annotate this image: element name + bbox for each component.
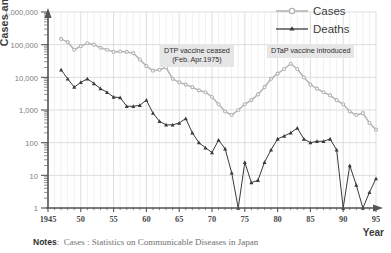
legend-label-cases: Cases (313, 5, 346, 17)
svg-text:100: 100 (25, 139, 38, 148)
svg-text:1: 1 (34, 204, 38, 213)
svg-text:70: 70 (208, 215, 216, 224)
annotation-dtap-line1: DTaP vaccine introduced (271, 46, 350, 55)
svg-text:90: 90 (339, 215, 347, 224)
annotation-dtp-vaccine-ceased: DTP vaccine ceased (Feb. Apr.1975) (160, 44, 234, 67)
notes-text: Cases : Statistics on Communicable Disea… (64, 237, 259, 247)
legend-key-deaths-icon (275, 23, 309, 35)
notes-colon: : (57, 237, 64, 247)
svg-text:95: 95 (372, 215, 380, 224)
notes-label: Notes (33, 237, 57, 247)
svg-text:75: 75 (241, 215, 249, 224)
y-axis-title: Cases and deaths (0, 0, 10, 60)
legend-item-cases: Cases (275, 2, 387, 20)
svg-text:80: 80 (273, 215, 281, 224)
svg-text:100,000: 100,000 (11, 41, 38, 50)
svg-text:55: 55 (109, 215, 117, 224)
legend-item-deaths: Deaths (275, 20, 387, 38)
svg-text:50: 50 (77, 215, 85, 224)
chart-legend: Cases Deaths (275, 2, 387, 38)
chart-figure: 1,000,000100,00010,0001,000100101 194550… (0, 0, 391, 253)
svg-text:85: 85 (306, 215, 314, 224)
annotation-dtp-line1: DTP vaccine ceased (164, 46, 230, 55)
svg-text:1945: 1945 (40, 215, 57, 224)
chart-notes: Notes: Cases : Statistics on Communicabl… (33, 237, 258, 247)
svg-text:10,000: 10,000 (15, 74, 38, 83)
svg-text:1,000: 1,000 (19, 106, 38, 115)
svg-text:65: 65 (175, 215, 183, 224)
legend-label-deaths: Deaths (313, 23, 349, 35)
legend-key-cases-icon (275, 5, 309, 17)
svg-text:10: 10 (30, 172, 38, 181)
x-axis-title: Year (363, 227, 384, 238)
annotation-dtap-vaccine-introduced: DTaP vaccine introduced (267, 44, 354, 58)
annotation-dtp-line2: (Feb. Apr.1975) (164, 55, 230, 64)
x-axis-tick-labels: 194550556065707580859095 (40, 215, 381, 224)
svg-text:60: 60 (142, 215, 150, 224)
